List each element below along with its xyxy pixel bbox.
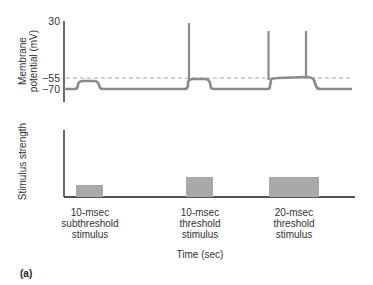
membrane-trace [64, 77, 352, 89]
stimulus-3-line3: stimulus [259, 229, 329, 240]
stimulus-bar-1 [76, 185, 103, 197]
stimulus-2-line2: threshold [165, 218, 235, 229]
stimulus-3-line2: threshold [259, 218, 329, 229]
stimulus-label-3: 20-msec threshold stimulus [259, 207, 329, 240]
stimulus-2-line3: stimulus [165, 229, 235, 240]
membrane-label-line2: potential (mV) [28, 21, 39, 101]
stimulus-strength-label: Stimulus strength [17, 117, 28, 207]
stimulus-bar-2 [186, 177, 213, 197]
membrane-potential-label: Membrane potential (mV) [17, 21, 39, 101]
stimulus-label-2: 10-msec threshold stimulus [165, 207, 235, 240]
stimulus-label-1: 10-msec subthreshold stimulus [55, 207, 125, 240]
stimulus-1-line2: subthreshold [55, 218, 125, 229]
stimulus-3-line1: 20-msec [259, 207, 329, 218]
stimulus-1-line3: stimulus [55, 229, 125, 240]
stimulus-bar-3 [269, 177, 319, 197]
membrane-label-line1: Membrane [17, 21, 28, 101]
time-axis-label: Time (sec) [160, 249, 240, 260]
stimulus-2-line1: 10-msec [165, 207, 235, 218]
panel-label: (a) [20, 268, 32, 279]
figure-canvas [0, 0, 373, 285]
stimulus-1-line1: 10-msec [55, 207, 125, 218]
